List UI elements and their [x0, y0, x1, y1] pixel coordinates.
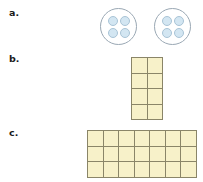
- grid-cell: [88, 162, 103, 177]
- grid-cell: [135, 131, 150, 146]
- grid-cell: [135, 147, 150, 162]
- grid-cell: [181, 131, 196, 146]
- grid-cell: [166, 147, 181, 162]
- item-label-a: a.: [9, 7, 19, 18]
- grid-cell: [150, 162, 165, 177]
- grid-cell: [135, 162, 150, 177]
- grid-cell: [119, 147, 134, 162]
- circle-group: [100, 8, 137, 45]
- grid-cell: [181, 147, 196, 162]
- circle-group: [154, 8, 191, 45]
- grid-cell: [181, 162, 196, 177]
- dot: [108, 28, 118, 38]
- item-b-array-grid: [131, 57, 163, 120]
- worksheet-figure: a. b. c.: [0, 0, 203, 182]
- grid-cell: [166, 131, 181, 146]
- dot: [108, 16, 118, 26]
- dot: [162, 28, 172, 38]
- grid-cell: [88, 131, 103, 146]
- grid-cell: [132, 89, 147, 104]
- grid-cell: [104, 147, 119, 162]
- dot: [162, 16, 172, 26]
- grid-cell: [148, 89, 163, 104]
- dot: [120, 16, 130, 26]
- grid-cell: [119, 131, 134, 146]
- cutoff-heading-remnant: [36, 0, 96, 3]
- grid-cell: [150, 147, 165, 162]
- grid-cell: [104, 131, 119, 146]
- grid-cell: [132, 74, 147, 89]
- item-c-array-grid: [87, 130, 197, 178]
- item-a-circle-groups: [98, 8, 198, 46]
- grid-cell: [148, 105, 163, 120]
- grid-cell: [148, 74, 163, 89]
- grid-cell: [104, 162, 119, 177]
- grid-cell: [132, 105, 147, 120]
- grid-cell: [132, 58, 147, 73]
- grid-cell: [148, 58, 163, 73]
- grid-cell: [166, 162, 181, 177]
- grid-cell: [150, 131, 165, 146]
- item-label-c: c.: [9, 127, 18, 138]
- dot: [120, 28, 130, 38]
- dot: [174, 16, 184, 26]
- grid-cell: [119, 162, 134, 177]
- item-label-b: b.: [9, 53, 19, 64]
- grid-cell: [88, 147, 103, 162]
- dot: [174, 28, 184, 38]
